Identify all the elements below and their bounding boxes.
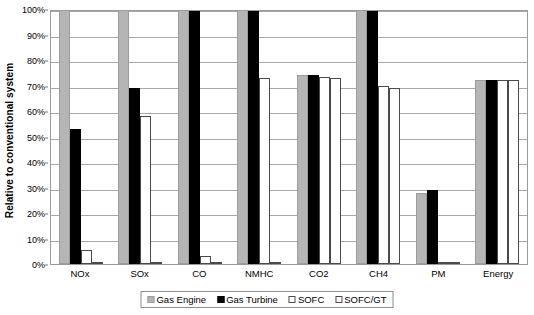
x-tick-label: CH4 (349, 268, 409, 284)
y-tick-label: 10% (27, 235, 45, 244)
bar-group (468, 11, 528, 264)
bar-set (356, 11, 400, 264)
x-tick-label: NMHC (229, 268, 289, 284)
bar (118, 10, 129, 264)
y-axis-title-text: Relative to conventional system (5, 62, 16, 217)
legend-label: Gas Engine (156, 294, 206, 305)
legend-item[interactable]: SOFC/GT (335, 294, 386, 305)
bar-set (178, 11, 222, 264)
y-tick-mark (45, 86, 48, 87)
bar (308, 75, 319, 264)
bar (416, 193, 427, 264)
bar (200, 256, 211, 264)
bar-set (118, 11, 162, 264)
legend-label: SOFC/GT (344, 294, 386, 305)
y-tick-label: 20% (27, 210, 45, 219)
bar (356, 10, 367, 264)
bar-group (289, 11, 349, 264)
bar-set (416, 11, 460, 264)
bar-group (51, 11, 111, 264)
bar (178, 10, 189, 264)
legend-swatch-icon (217, 296, 224, 303)
y-axis-title: Relative to conventional system (2, 10, 18, 270)
bar-group (230, 11, 290, 264)
x-tick-label: CO (170, 268, 230, 284)
y-tick-mark (45, 188, 48, 189)
bar (140, 116, 151, 264)
x-tick-label: Energy (468, 268, 528, 284)
bar (319, 77, 330, 264)
bar (92, 262, 103, 264)
bar-group (170, 11, 230, 264)
bar-set (237, 11, 281, 264)
y-tick-label: 0% (32, 261, 45, 270)
y-tick-label: 30% (27, 184, 45, 193)
bar (248, 10, 259, 264)
bar-groups (51, 11, 527, 264)
bar-set (297, 11, 341, 264)
y-tick-label: 40% (27, 159, 45, 168)
bar (81, 250, 92, 264)
x-tick-label: SOx (110, 268, 170, 284)
legend-label: Gas Turbine (226, 294, 278, 305)
bar-group (349, 11, 409, 264)
bar (508, 80, 519, 264)
bar (237, 10, 248, 264)
y-tick-label: 80% (27, 57, 45, 66)
bar (211, 262, 222, 264)
bar (438, 262, 449, 264)
x-tick-label: CO2 (289, 268, 349, 284)
bar (378, 86, 389, 265)
bar (70, 129, 81, 264)
x-axis-labels: NOxSOxCONMHCCO2CH4PMEnergy (50, 268, 528, 284)
legend-swatch-icon (289, 296, 296, 303)
bar-set (475, 11, 519, 264)
y-tick-label: 100% (22, 6, 45, 15)
y-tick-label: 90% (27, 31, 45, 40)
bar (129, 88, 140, 264)
bar (427, 190, 438, 264)
bar (389, 88, 400, 264)
plot-area (50, 10, 528, 265)
y-tick-mark (45, 112, 48, 113)
x-tick-label: NOx (50, 268, 110, 284)
bar (151, 262, 162, 264)
y-tick-mark (45, 137, 48, 138)
legend-label: SOFC (298, 294, 324, 305)
y-tick-mark (45, 163, 48, 164)
y-tick-mark (45, 214, 48, 215)
bar (367, 10, 378, 264)
y-tick-mark (45, 239, 48, 240)
legend-swatch-icon (335, 296, 342, 303)
bar (330, 78, 341, 264)
bar (259, 78, 270, 264)
bar (270, 262, 281, 264)
legend-item[interactable]: SOFC (289, 294, 324, 305)
legend-item[interactable]: Gas Turbine (217, 294, 278, 305)
bar (486, 80, 497, 264)
y-tick-mark (45, 10, 48, 11)
bar (497, 80, 508, 264)
legend-item[interactable]: Gas Engine (147, 294, 206, 305)
y-tick-label: 70% (27, 82, 45, 91)
y-tick-mark (45, 265, 48, 266)
bar-group (111, 11, 171, 264)
legend-swatch-icon (147, 296, 154, 303)
chart-legend: Gas EngineGas TurbineSOFCSOFC/GT (140, 291, 393, 308)
y-tick-mark (45, 35, 48, 36)
y-axis-ticks: 0%10%20%30%40%50%60%70%80%90%100% (18, 10, 48, 265)
bar (59, 10, 70, 264)
y-tick-label: 60% (27, 108, 45, 117)
chart-container: Relative to conventional system 0%10%20%… (0, 0, 534, 315)
bar-set (59, 11, 103, 264)
bar (475, 80, 486, 264)
y-tick-mark (45, 61, 48, 62)
bar (189, 10, 200, 264)
bar (449, 262, 460, 264)
bar (297, 75, 308, 264)
y-tick-label: 50% (27, 133, 45, 142)
bar-group (408, 11, 468, 264)
x-tick-label: PM (409, 268, 469, 284)
